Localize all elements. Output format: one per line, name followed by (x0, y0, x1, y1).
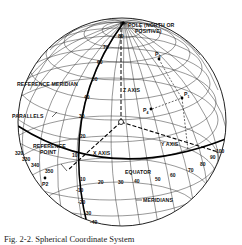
meridians-label: MERIDIANS (143, 197, 173, 203)
p2-label: P2 (42, 181, 49, 187)
svg-text:10: 10 (80, 176, 86, 182)
parallels-label: PARALLELS (12, 113, 44, 119)
svg-text:70: 70 (103, 44, 109, 50)
svg-text:-10: -10 (76, 187, 83, 193)
svg-text:90: 90 (210, 154, 216, 160)
point-p2 (44, 177, 47, 180)
reference-point-pointer (61, 164, 67, 171)
svg-text:330: 330 (22, 156, 31, 162)
svg-text:40: 40 (84, 94, 90, 100)
p4-label: P4 (143, 107, 149, 115)
svg-text:350: 350 (45, 168, 54, 174)
y-axis-label: Y AXIS (161, 141, 179, 147)
svg-text:80: 80 (200, 161, 206, 167)
reference-point-label-line2: POINT (40, 149, 57, 155)
svg-text:340: 340 (31, 162, 40, 168)
x-axis-label: X AXIS (93, 150, 111, 156)
point-p4 (150, 108, 153, 111)
svg-text:100: 100 (216, 148, 225, 154)
svg-text:40: 40 (134, 178, 140, 184)
svg-text:30: 30 (79, 113, 85, 119)
z-axis-label: Z AXIS (123, 87, 141, 93)
svg-text:20: 20 (80, 133, 86, 139)
svg-text:50: 50 (155, 176, 161, 182)
p4-p1-guide (152, 98, 182, 109)
spherical-coordinate-diagram: POLE (NORTH OR POSITIVE) REFERENCE MERID… (0, 0, 242, 245)
svg-text:-40: -40 (90, 219, 97, 225)
pole-label-line2: POSITIVE) (135, 28, 162, 34)
equator-label: EQUATOR (125, 169, 151, 175)
figure-caption: Fig. 2-2. Spherical Coordinate System (4, 234, 134, 244)
svg-text:50: 50 (92, 76, 98, 82)
svg-text:-30: -30 (84, 210, 91, 216)
svg-text:20: 20 (98, 179, 104, 185)
origin-marker (119, 120, 124, 125)
svg-text:80: 80 (118, 33, 124, 39)
p3-p1-guide (159, 59, 188, 150)
parallels-grid (2, 20, 218, 238)
svg-text:60: 60 (170, 172, 176, 178)
reference-meridian-label: REFERENCE MERIDIAN (17, 81, 78, 87)
parallels-pointer (52, 112, 57, 117)
svg-text:-20: -20 (78, 199, 85, 205)
p1-label: P1 (184, 91, 190, 99)
x-axis-line (68, 122, 121, 170)
svg-text:10: 10 (72, 152, 78, 158)
svg-text:60: 60 (97, 59, 103, 65)
svg-text:70: 70 (188, 167, 194, 173)
svg-text:30: 30 (118, 179, 124, 185)
point-p1 (181, 97, 184, 100)
